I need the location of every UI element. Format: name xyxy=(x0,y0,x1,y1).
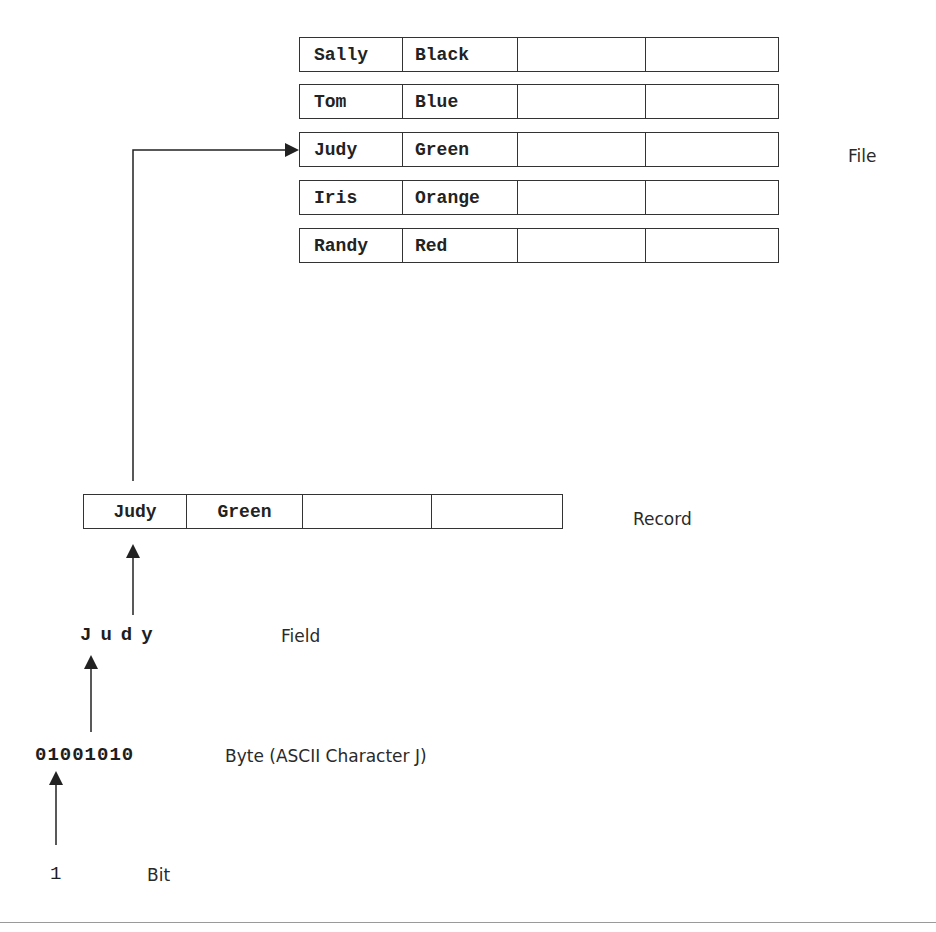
name-cell: Iris xyxy=(300,181,403,214)
file-record-row: Iris Orange xyxy=(299,180,779,215)
record-field-cell xyxy=(432,495,562,528)
empty-cell xyxy=(646,181,778,214)
empty-cell xyxy=(646,133,778,166)
field-label: Field xyxy=(281,626,320,646)
file-record-row: Sally Black xyxy=(299,37,779,72)
record-field-cell: Green xyxy=(187,495,303,528)
empty-cell xyxy=(646,229,778,262)
empty-cell xyxy=(518,181,646,214)
field-value: Judy xyxy=(80,624,162,646)
record-row: Judy Green xyxy=(83,494,563,529)
color-cell: Orange xyxy=(403,181,518,214)
record-field-cell xyxy=(303,495,432,528)
file-record-row: Tom Blue xyxy=(299,84,779,119)
empty-cell xyxy=(518,133,646,166)
name-cell: Judy xyxy=(300,133,403,166)
empty-cell xyxy=(646,85,778,118)
bottom-divider xyxy=(0,922,936,923)
bit-label: Bit xyxy=(147,865,170,885)
empty-cell xyxy=(518,229,646,262)
byte-value: 01001010 xyxy=(35,744,134,766)
file-label: File xyxy=(848,146,876,166)
empty-cell xyxy=(518,38,646,71)
record-label: Record xyxy=(633,509,692,529)
name-cell: Randy xyxy=(300,229,403,262)
color-cell: Green xyxy=(403,133,518,166)
record-field-cell: Judy xyxy=(84,495,187,528)
color-cell: Black xyxy=(403,38,518,71)
name-cell: Tom xyxy=(300,85,403,118)
color-cell: Blue xyxy=(403,85,518,118)
name-cell: Sally xyxy=(300,38,403,71)
record-to-file-arrow xyxy=(133,150,297,481)
file-record-row-highlighted: Judy Green xyxy=(299,132,779,167)
color-cell: Red xyxy=(403,229,518,262)
bit-value: 1 xyxy=(50,863,61,885)
empty-cell xyxy=(518,85,646,118)
byte-label: Byte (ASCII Character J) xyxy=(225,746,427,766)
file-record-row: Randy Red xyxy=(299,228,779,263)
empty-cell xyxy=(646,38,778,71)
